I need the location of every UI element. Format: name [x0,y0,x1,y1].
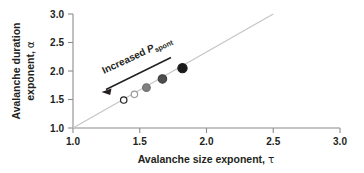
svg-text:Avalanche size exponent,τ: Avalanche size exponent,τ [138,153,275,165]
svg-text:Avalanche duration: Avalanche duration [10,22,22,119]
y-axis-title-greek: α [24,41,36,48]
y-axis-title-line1: Avalanche duration [10,22,22,119]
data-point [143,84,151,92]
data-point [178,64,187,73]
y-tick-label-2: 1.5 [50,94,64,105]
y-axis-title-line2: exponent, [24,51,36,101]
data-point [131,91,137,97]
x-axis-title: Avalanche size exponent,τ [138,153,275,165]
y-tick-label-3: 2.0 [50,66,64,77]
x-axis-title-text: Avalanche size exponent, [138,153,265,165]
data-point [158,75,166,83]
y-tick-label-1: 1.0 [50,123,64,134]
x-tick-label-5: 3.0 [333,136,347,147]
x-axis-title-greek: τ [268,153,274,165]
x-tick-label-2: 1.5 [133,136,147,147]
avalanche-exponent-scatter-chart: 1.0 1.5 2.0 2.5 3.0 1.0 1.5 2.0 2.5 3.0 … [0,0,364,173]
y-tick-label-4: 2.5 [50,37,64,48]
data-point [121,97,127,103]
x-tick-label-4: 2.5 [266,136,280,147]
y-tick-label-5: 3.0 [50,9,64,20]
chart-background [0,0,364,173]
x-tick-label-1: 1.0 [66,136,80,147]
x-tick-label-3: 2.0 [200,136,214,147]
